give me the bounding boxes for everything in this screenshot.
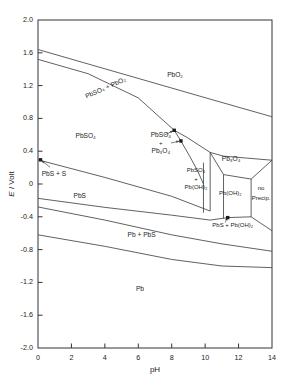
region-label-no-precip-line2: Precip. [252,195,271,201]
x-tick-label-6: 12 [235,353,243,362]
y-tick-label-6: 0.4 [23,146,33,155]
pourbaix-diagram-figure: 02468101214pH-2.0-1.6-1.2-0.8-0.400.40.8… [0,0,285,389]
y-tick-label-5: 0 [29,179,33,188]
region-label-pb-pbs: Pb + PbS [128,231,157,238]
region-label-pbo2: PbO₂ [167,71,183,78]
y-tick-label-3: -0.8 [21,245,33,254]
region-label-pbso4-pb3o4-line2: Pb₃O₄ [152,147,171,154]
y-tick-label-2: -1.2 [21,277,33,286]
x-tick-label-2: 4 [103,353,107,362]
x-tick-label-3: 6 [136,353,140,362]
x-tick-label-1: 2 [69,353,73,362]
y-axis-label: E / Volt [7,171,16,197]
y-tick-label-8: 1.2 [23,81,33,90]
y-tick-label-4: -0.4 [21,212,33,221]
boundary-3 [210,152,272,179]
pourbaix-plot-svg: 02468101214pH-2.0-1.6-1.2-0.8-0.400.40.8… [0,0,285,389]
x-axis-label: pH [150,365,160,374]
region-label-pboh2: Pb(OH)₂ [219,190,242,196]
region-label-pbso4: PbSO₄ [75,132,96,139]
marker-pbso4-pb3o4 [179,139,182,142]
y-tick-label-9: 1.6 [23,48,33,57]
marker-pbso4-pbo2-upper [173,129,176,132]
marker-pbs-s [39,158,42,161]
region-label-pbso4-pb3o4-plus: + [159,140,163,146]
region-label-pbs-s: PbS + S [42,170,67,177]
x-tick-label-0: 0 [36,353,40,362]
arrow-pbso4-pb3o4-head [176,141,179,144]
y-tick-label-10: 2.0 [23,15,33,24]
region-label-pbs-pboh2: PbS + Pb(OH)₂ [212,222,254,228]
boundary-11 [38,235,272,268]
y-tick-label-0: -2.0 [21,343,33,352]
boundary-1 [38,59,272,160]
boundary-0 [38,50,272,117]
region-label-pb3o4: Pb₃O₄ [222,155,241,162]
x-tick-label-4: 8 [170,353,174,362]
region-label-no-precip-line1: no [258,185,265,191]
region-label-pbso4-pboh2-plus: + [194,176,198,182]
region-label-pbs: PbS [74,192,87,199]
x-tick-label-5: 10 [201,353,209,362]
marker-pbs-pboh2 [226,216,229,219]
region-label-pb: Pb [136,285,144,292]
region-label-pbso4-pboh2-line2: Pb(OH)₂ [185,184,208,190]
region-label-pbso4-pbo2: PbSO₄ + PbO₂ [84,75,127,99]
y-tick-label-7: 0.8 [23,113,33,122]
region-label-pbso4-pboh2-line1: PbSO₄ [187,167,206,173]
region-label-pbso4-pb3o4-line1: PbSO₄ [151,131,172,138]
x-tick-label-7: 14 [268,353,276,362]
y-tick-label-1: -1.6 [21,310,33,319]
